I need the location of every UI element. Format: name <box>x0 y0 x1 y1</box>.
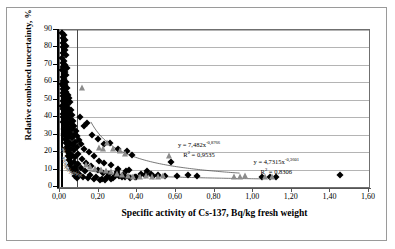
x-axis-tick-label: 0,60 <box>158 192 192 201</box>
y-axis-tick-label: 80 <box>30 42 52 50</box>
y-axis-title: Relative combined uncertainty, % <box>23 0 33 150</box>
data-point-cross: × <box>63 163 70 170</box>
y-axis-tick-label: 60 <box>30 77 52 85</box>
equation-exponent: -0,8766 <box>206 139 220 144</box>
x-axis-tick-label: 0,40 <box>119 192 153 201</box>
x-axis-title: Specific activity of Cs-137, Bq/kg fresh… <box>59 208 370 218</box>
plot-area: ×××××××××××××× y = 7,482x-0,8766R2 = 0,9… <box>59 29 370 188</box>
x-axis-tick-label: 1,40 <box>312 192 346 201</box>
data-point-triangle <box>103 168 109 174</box>
y-axis-tick-label: 0 <box>30 182 52 190</box>
r-squared-value: = 0,8306 <box>267 168 292 175</box>
data-point-triangle <box>79 85 85 91</box>
x-axis-tick-label: 1,60 <box>351 192 385 201</box>
data-point-triangle <box>122 150 128 156</box>
r-squared-value: = 0,9535 <box>190 151 215 158</box>
r-squared-text: R2 = 0,8306 <box>254 166 299 176</box>
data-point-triangle <box>83 162 89 168</box>
data-point-triangle <box>160 173 166 179</box>
y-axis-tick-label: 70 <box>30 60 52 68</box>
y-axis-tick-label: 90 <box>30 25 52 33</box>
x-axis-tick-label: 1,00 <box>235 192 269 201</box>
y-axis-tick-label: 10 <box>30 165 52 173</box>
figure-container: Relative combined uncertainty, % Specifi… <box>0 0 395 249</box>
x-axis-tick-label: 0,20 <box>81 192 115 201</box>
data-point-triangle <box>242 173 248 179</box>
trend-equation-upper: y = 7,482x-0,8766R2 = 0,9535 <box>178 138 220 158</box>
data-point-triangle <box>110 145 116 151</box>
trend-equation-lower: y = 4,7315x-0,3601R2 = 0,8306 <box>254 156 299 176</box>
equation-text: y = 7,482x-0,8766 <box>178 141 220 148</box>
r-squared-text: R2 = 0,9535 <box>178 149 220 159</box>
equation-exponent: -0,3601 <box>285 157 299 162</box>
x-axis-tick-label: 0,00 <box>42 192 76 201</box>
x-axis-tick-label: 1,20 <box>274 192 308 201</box>
data-point-cross: × <box>77 172 84 179</box>
y-axis-tick-label: 40 <box>30 112 52 120</box>
data-point-triangle <box>96 144 102 150</box>
y-axis-tick-label: 20 <box>30 147 52 155</box>
y-axis-tick-label: 30 <box>30 130 52 138</box>
data-point-triangle <box>130 173 136 179</box>
equation-text: y = 4,7315x-0,3601 <box>254 158 299 165</box>
x-axis-tick-label: 0,80 <box>197 192 231 201</box>
y-axis-tick-label: 50 <box>30 95 52 103</box>
data-point-triangle <box>166 152 172 158</box>
